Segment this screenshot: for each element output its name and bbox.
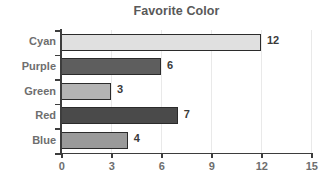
plot-area: 126374 (61, 30, 311, 153)
x-axis-label-0: 0 (59, 160, 65, 172)
bar-value-label: 3 (117, 83, 123, 95)
x-tick (211, 153, 213, 158)
x-axis-label-3: 3 (109, 160, 115, 172)
y-axis-label-blue: Blue (0, 134, 56, 146)
bar-value-label: 6 (167, 59, 173, 71)
bar-purple[interactable] (61, 58, 161, 75)
y-axis-labels: CyanPurpleGreenRedBlue (0, 30, 56, 153)
bar-red[interactable] (61, 107, 178, 124)
x-axis-label-12: 12 (256, 160, 268, 172)
bar-value-label: 12 (267, 34, 279, 46)
x-axis-label-6: 6 (159, 160, 165, 172)
bar-row: 3 (61, 79, 311, 104)
bar-cyan[interactable] (61, 34, 261, 51)
x-tick (111, 153, 113, 158)
x-axis-label-9: 9 (209, 160, 215, 172)
bar-row: 7 (61, 104, 311, 129)
x-tick (311, 153, 313, 158)
bar-row: 6 (61, 55, 311, 80)
y-axis-label-purple: Purple (0, 60, 56, 72)
bar-row: 4 (61, 128, 311, 153)
y-axis-label-green: Green (0, 85, 56, 97)
y-axis-label-cyan: Cyan (0, 35, 56, 47)
x-axis-label-15: 15 (306, 160, 318, 172)
x-tick (261, 153, 263, 158)
y-axis-line (60, 29, 62, 154)
chart-title: Favorite Color (0, 4, 329, 18)
x-tick (161, 153, 163, 158)
y-axis-label-red: Red (0, 109, 56, 121)
bar-green[interactable] (61, 83, 111, 100)
gridline (311, 30, 312, 153)
bar-row: 12 (61, 30, 311, 55)
bar-value-label: 7 (184, 108, 190, 120)
bar-chart: Favorite Color 126374 CyanPurpleGreenRed… (0, 0, 329, 176)
bar-blue[interactable] (61, 132, 128, 149)
bar-value-label: 4 (134, 132, 140, 144)
x-axis-line (60, 153, 312, 155)
x-tick (61, 153, 63, 158)
